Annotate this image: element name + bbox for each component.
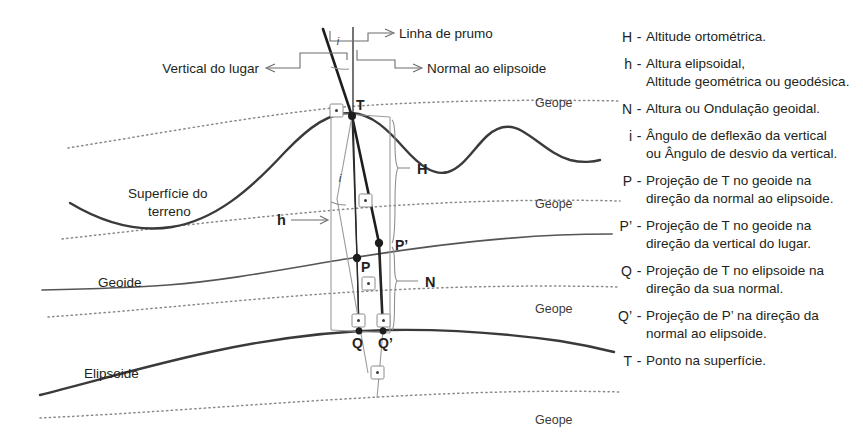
legend-item-P: P - Projeção de T no geoide na direção d… [612,172,862,208]
legend-dash: - [632,100,646,118]
node-Q [356,328,363,335]
node-P-prime [375,239,383,247]
legend-item-h: h - Altura elipsoidal, Altitude geométri… [612,55,862,91]
N-bracket [392,247,397,330]
ellipsoid-curve [40,330,614,395]
right-angle-marker-Qprime [377,314,390,327]
legend-description: Altitude ortométrica. [646,28,862,46]
legend-description: Ponto na superfície. [646,352,862,370]
legend-description: Projeção de P’ na direção da normal ao e… [646,307,862,343]
label-point-T: T [356,97,365,113]
legend-symbol: Q [612,262,632,280]
legend-item-N: N - Altura ou Ondulação geoidal. [612,100,862,118]
legend-symbol: P [612,172,632,190]
label-geope-3: Geope [535,302,573,316]
legend-dash: - [632,262,646,280]
legend-symbol: i [612,127,632,145]
label-geope-4: Geope [535,413,573,427]
legend-description-line1: Projeção de T no elipsoide na [646,263,824,278]
label-elipsoide: Elipsoide [84,366,139,381]
legend-list: H - Altitude ortométrica. h - Altura eli… [612,28,862,379]
right-angle-marker-upper-mid [359,194,372,207]
legend-description-line1: Altura ou Ondulação geoidal. [646,101,820,116]
geope-curve-1b [68,108,332,148]
legend-description-line1: Projeção de T no geoide na [646,173,811,188]
legend-item-H: H - Altitude ortométrica. [612,28,862,46]
right-angle-marker-below-ellipsoid [371,366,384,379]
legend-description-line1: Projeção de P’ na direção da [646,308,819,323]
right-angle-marker-lower-mid [362,277,375,290]
legend-item-P-prime: P’ - Projeção de T no geoide na direção … [612,217,862,253]
node-T [348,112,356,120]
legend-dash: - [632,172,646,190]
legend-dash: - [632,55,646,73]
angle-arc-top [331,67,349,69]
legend-symbol: T [612,352,632,370]
right-angle-marker-T [330,104,343,117]
legend-description: Projeção de T no geoide na direção da no… [646,172,862,208]
legend-description-line2: direção da sua normal. [646,280,862,298]
legend-description-line1: Altura elipsoidal, [646,56,745,71]
legend-dash: - [632,307,646,325]
callout-vertical-do-lugar: Vertical do lugar [162,61,259,76]
legend-dash: - [632,352,646,370]
label-point-Q-prime: Q’ [378,335,393,351]
legend-description: Projeção de T no elipsoide na direção da… [646,262,862,298]
label-superficie-do-terreno-line1: Superfície do [128,186,208,201]
legend-description-line2: direção da normal ao elipsoide. [646,190,862,208]
label-superficie-do-terreno-line2: terreno [148,204,191,219]
label-point-Q: Q [352,335,363,351]
node-P [353,254,361,262]
legend-symbol: H [612,28,632,46]
label-point-P: P [361,259,370,275]
legend-description-line2: Altitude geométrica ou geodésica. [646,73,862,91]
legend-item-Q: Q - Projeção de T no elipsoide na direçã… [612,262,862,298]
legend-dash: - [632,217,646,235]
legend-description: Altura ou Ondulação geoidal. [646,100,862,118]
legend-description: Ângulo de deflexão da vertical ou Ângulo… [646,127,862,163]
legend-description: Altura elipsoidal, Altitude geométrica o… [646,55,862,91]
label-geoide: Geoide [98,275,142,290]
label-quantity-h: h [277,212,286,228]
diagram-page: Linha de prumo Normal ao elipsoide Verti… [0,0,863,445]
legend-description: Projeção de T no geoide na direção da ve… [646,217,862,253]
legend-description-line2: normal ao elipsoide. [646,325,862,343]
linha-de-prumo-leader [330,31,392,41]
geope-curve-1 [330,100,620,108]
legend-description-line2: ou Ângulo de desvio da vertical. [646,145,862,163]
label-geope-2: Geope [535,197,573,211]
deflection-construction-line [337,116,352,199]
legend-description-line1: Ângulo de deflexão da vertical [646,128,827,143]
geope-curve-4 [40,391,620,418]
legend-symbol: P’ [612,217,632,235]
angle-arc-middle [331,202,346,205]
label-quantity-N: N [425,274,435,290]
right-angle-marker-Q [352,314,365,327]
callout-linha-de-prumo: Linha de prumo [399,26,493,41]
legend-item-i: i - Ângulo de deflexão da vertical ou Ân… [612,127,862,163]
H-bracket [392,120,398,243]
label-geope-1: Geope [535,96,573,110]
legend-item-Q-prime: Q’ - Projeção de P’ na direção da normal… [612,307,862,343]
legend-symbol: h [612,55,632,73]
legend-dash: - [632,28,646,46]
legend-symbol: N [612,100,632,118]
callout-normal-ao-elipsoide: Normal ao elipsoide [427,61,546,76]
label-point-P-prime: P’ [395,237,408,253]
legend-dash: - [632,127,646,145]
legend-symbol: Q’ [612,307,632,325]
legend-description-line1: Ponto na superfície. [646,353,766,368]
legend-description-line1: Altitude ortométrica. [646,29,766,44]
label-quantity-H: H [417,161,427,177]
legend-item-T: T - Ponto na superfície. [612,352,862,370]
normal-ao-elipsoide-leader [357,50,420,68]
legend-description-line1: Projeção de T no geoide na [646,218,811,233]
legend-description-line2: direção da vertical do lugar. [646,235,862,253]
node-Q-prime [380,328,387,335]
